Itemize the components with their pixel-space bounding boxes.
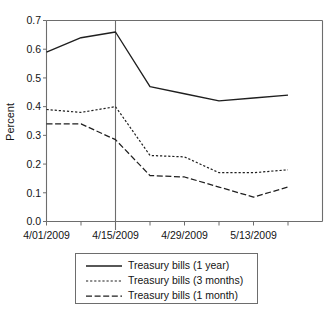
series-line-treasury-bills-3-months (47, 107, 289, 173)
legend-label: Treasury bills (3 months) (128, 274, 243, 286)
series-line-treasury-bills-1-month (47, 124, 289, 197)
x-axis-tick-marks (47, 222, 289, 226)
y-tick-label: 0.6 (26, 43, 41, 55)
legend-label: Treasury bills (1 year) (128, 259, 229, 271)
y-axis-title: Percent (4, 103, 16, 141)
x-tick-label: 4/01/2009 (23, 229, 70, 241)
y-tick-label: 0.0 (26, 215, 41, 227)
treasury-bill-rates-chart: 0.00.10.20.30.40.50.60.7 Percent 4/01/20… (0, 0, 334, 312)
y-tick-label: 0.1 (26, 187, 41, 199)
y-tick-label: 0.4 (26, 100, 41, 112)
series-lines (47, 32, 289, 197)
y-tick-label: 0.3 (26, 129, 41, 141)
y-axis-tick-labels: 0.00.10.20.30.40.50.60.7 (26, 14, 41, 227)
series-line-treasury-bills-1-year (47, 32, 289, 101)
x-tick-label: 4/15/2009 (92, 229, 139, 241)
y-tick-label: 0.7 (26, 14, 41, 26)
y-tick-label: 0.2 (26, 158, 41, 170)
x-tick-label: 4/29/2009 (161, 229, 208, 241)
chart-canvas: 0.00.10.20.30.40.50.60.7 Percent 4/01/20… (0, 0, 334, 312)
x-axis-tick-labels: 4/01/20094/15/20094/29/20095/13/2009 (23, 229, 277, 241)
chart-legend: Treasury bills (1 year)Treasury bills (3… (76, 254, 258, 304)
y-tick-label: 0.5 (26, 72, 41, 84)
legend-label: Treasury bills (1 month) (128, 289, 238, 301)
x-tick-label: 5/13/2009 (230, 229, 277, 241)
